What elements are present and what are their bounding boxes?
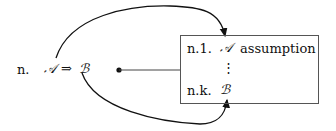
line-number-n1: n.1. [187,42,212,55]
formula-b: ℬ [79,62,89,75]
line-number-n: n. [17,63,30,76]
vertical-dots: ⋮ [222,61,235,74]
assumption-formula: 𝒜 [220,41,232,54]
implies-arrow: ⇒ [61,62,72,75]
formula-a: 𝒜 [44,62,56,75]
justification-assumption: assumption [240,42,316,55]
line-number-nk: n.k. [187,84,212,97]
conclusion-formula: ℬ [220,83,230,96]
